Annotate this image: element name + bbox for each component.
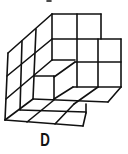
option-label: D <box>40 130 50 149</box>
left-side-face <box>5 14 52 120</box>
inner-step-cube <box>33 60 75 99</box>
top-front-face <box>52 14 121 87</box>
bottom-floor-grid <box>5 87 121 126</box>
cube-structure-figure <box>0 0 128 154</box>
